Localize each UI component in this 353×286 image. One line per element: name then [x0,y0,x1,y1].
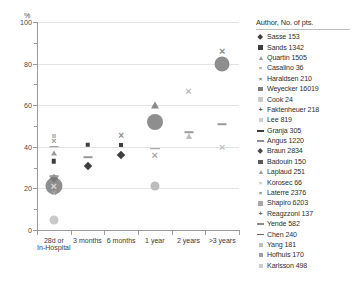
legend-item-label: Granja 305 [267,127,301,135]
legend-item-label: Casalino 36 [267,64,303,72]
data-point: × [149,150,160,161]
top-caption [28,0,218,8]
legend-item-label: Quartin 1505 [267,54,307,62]
legend-item-label: Badouin 150 [267,158,306,166]
data-point [186,133,192,139]
gridline [37,22,239,23]
legend-item[interactable]: ×Korosec 66 [256,177,353,187]
legend-item[interactable]: Sasse 153 [256,32,353,42]
x-axis-tick-label: 2 years [172,237,206,244]
legend-item-label: Yang 181 [267,241,296,249]
legend-marker-icon [256,220,265,229]
legend-item-label: Sasse 153 [267,33,300,41]
legend-item-label: Angus 1220 [267,137,304,145]
legend-marker-icon [256,251,265,260]
legend-item[interactable]: Granja 305 [256,126,353,136]
x-axis-tick-label: 28d orIn-Hospital [37,237,71,251]
x-axis-tick-label: >3 years [205,237,239,244]
x-axis-tick [71,231,72,235]
data-point [151,102,159,109]
legend-item[interactable]: Karlsson 498 [256,261,353,271]
legend-item[interactable]: Sands 1342 [256,42,353,52]
data-point [49,146,58,148]
data-point [51,151,57,156]
legend-marker-icon: × [256,64,265,73]
legend-item[interactable]: Laplaud 251 [256,167,353,177]
legend-marker-icon [256,157,265,166]
legend-item[interactable]: Weyecker 16019 [256,84,353,94]
x-axis-tick-label: 3 months [71,237,105,244]
legend-item-label: Haraldsen 210 [267,75,312,83]
legend-item[interactable]: Angus 1220 [256,136,353,146]
y-axis-tick-label: 80 [10,60,32,69]
legend-item[interactable]: Yang 181 [256,240,353,250]
legend-marker-icon [256,85,265,94]
x-axis-tick [37,231,38,235]
legend-item[interactable]: Shapiro 6203 [256,198,353,208]
legend-marker-icon: × [256,74,265,83]
legend-item[interactable]: Lee 819 [256,115,353,125]
data-point [215,56,230,71]
data-point: × [217,46,228,57]
legend-items: Sasse 153Sands 1342Quartin 1505×Casalino… [256,32,353,271]
data-point [117,151,125,159]
legend-item[interactable]: Badouin 150 [256,157,353,167]
legend-item[interactable]: Hofhuis 170 [256,250,353,260]
legend-marker-icon [256,43,265,52]
legend-item[interactable]: ×Laterre 2376 [256,188,353,198]
legend-marker-icon [256,199,265,208]
x-axis-tick [239,231,240,235]
legend-marker-icon [256,33,265,42]
x-axis-tick [104,231,105,235]
data-point [83,156,92,158]
legend-item-label: Reagzzoni 137 [267,210,313,218]
legend-item-label: Hofhuis 170 [267,251,304,259]
data-point [150,182,159,191]
legend-item[interactable]: Braun 2834 [256,146,353,156]
x-axis-tick [138,231,139,235]
legend-item-label: Sands 1342 [267,44,304,52]
legend-item-label: Korosec 66 [267,179,302,187]
plot-area: ×××××××× [37,22,239,230]
legend-item-label: Weyecker 16019 [267,85,319,93]
legend-item[interactable]: Chen 240 [256,229,353,239]
gridline [37,105,239,106]
data-point [49,175,58,177]
legend: Author, No. of pts. Sasse 153Sands 1342Q… [256,18,353,271]
legend-item[interactable]: ×Haraldsen 210 [256,74,353,84]
legend-item[interactable]: +Reagzzoni 137 [256,209,353,219]
legend-item-label: Faktenheuer 218 [267,106,319,114]
legend-item[interactable]: Yende 582 [256,219,353,229]
legend-marker-icon [256,116,265,125]
legend-marker-icon [256,168,265,177]
x-axis-tick [205,231,206,235]
legend-item[interactable]: Cook 24 [256,94,353,104]
y-axis-tick-label: 20 [10,184,32,193]
legend-marker-icon: + [256,105,265,114]
legend-marker-icon: × [256,178,265,187]
legend-marker-icon [256,230,265,239]
legend-item-label: Lee 819 [267,116,292,124]
legend-item-label: Shapiro 6203 [267,199,308,207]
legend-title: Author, No. of pts. [256,18,350,30]
legend-item-label: Chen 240 [267,231,297,239]
data-point [184,131,193,133]
legend-marker-icon: + [256,209,265,218]
legend-item-label: Laterre 2376 [267,189,306,197]
legend-marker-icon [256,126,265,135]
y-axis-tick-label: 0 [10,226,32,235]
y-axis-tick-label: 60 [10,101,32,110]
gridline [37,64,239,65]
legend-item[interactable]: +Faktenheuer 218 [256,105,353,115]
data-point: × [49,188,58,197]
y-axis-tick-label: 40 [10,143,32,152]
legend-item[interactable]: Quartin 1505 [256,53,353,63]
legend-item-label: Yende 582 [267,220,300,228]
legend-marker-icon [256,95,265,104]
y-axis-tick-label: 100 [10,18,32,27]
y-axis-line [37,22,38,231]
data-point [52,159,57,164]
legend-marker-icon: × [256,189,265,198]
legend-item[interactable]: ×Casalino 36 [256,63,353,73]
legend-marker-icon [256,147,265,156]
